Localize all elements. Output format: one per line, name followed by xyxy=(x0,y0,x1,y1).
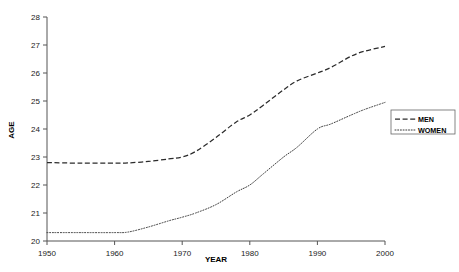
y-tick-label-28: 28 xyxy=(31,13,40,22)
axes-group xyxy=(47,17,385,241)
y-tick-label-25: 25 xyxy=(31,97,40,106)
y-tick-label-27: 27 xyxy=(31,41,40,50)
y-tick-label-26: 26 xyxy=(31,69,40,78)
x-tick-label-1980: 1980 xyxy=(241,249,259,258)
chart-legend: MENWOMEN xyxy=(391,110,455,135)
y-tick-label-22: 22 xyxy=(31,181,40,190)
x-axis-ticks xyxy=(47,241,385,245)
data-series-group xyxy=(47,46,385,232)
y-tick-label-20: 20 xyxy=(31,237,40,246)
y-axis-title: AGE xyxy=(7,121,16,139)
legend-label-women: WOMEN xyxy=(418,126,446,135)
chart-container: 202122232425262728 195019601970198019902… xyxy=(0,0,459,272)
series-line-men xyxy=(47,46,385,163)
y-tick-label-24: 24 xyxy=(31,125,40,134)
series-line-women xyxy=(47,102,385,232)
legend-label-men: MEN xyxy=(418,115,434,124)
x-tick-label-2000: 2000 xyxy=(376,249,394,258)
x-tick-label-1990: 1990 xyxy=(309,249,327,258)
y-tick-label-21: 21 xyxy=(31,209,40,218)
age-at-first-marriage-line-chart: 202122232425262728 195019601970198019902… xyxy=(0,0,459,272)
x-tick-label-1970: 1970 xyxy=(173,249,191,258)
x-tick-label-1950: 1950 xyxy=(38,249,56,258)
y-axis-tick-labels: 202122232425262728 xyxy=(31,13,40,246)
x-axis-title: YEAR xyxy=(205,255,227,264)
y-tick-label-23: 23 xyxy=(31,153,40,162)
x-tick-label-1960: 1960 xyxy=(106,249,124,258)
y-axis-ticks xyxy=(43,17,47,241)
